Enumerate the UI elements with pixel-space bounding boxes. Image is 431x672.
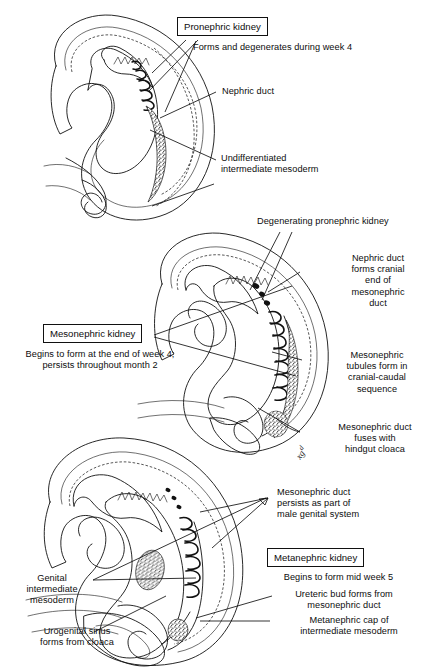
label-genital-intermediate-mesoderm: Genital intermediate mesoderm — [5, 573, 99, 607]
embryology-figure: Pronephric kidney Forms and degenerates … — [0, 0, 431, 672]
label-mesonephric-duct-persists: Mesonephric duct persists as part of mal… — [277, 487, 427, 521]
label-urogenital-sinus: Urogenital sinus forms from cloaca — [2, 626, 152, 648]
label-metanephric-cap: Metanephric cap of intermediate mesoderm — [268, 615, 430, 637]
label-metanephric-kidney-caption: Begins to form mid week 5 — [251, 572, 426, 583]
boxed-label-metanephric-kidney: Metanephric kidney — [267, 548, 364, 567]
label-ureteric-bud: Ureteric bud forms from mesonephric duct — [258, 589, 430, 611]
